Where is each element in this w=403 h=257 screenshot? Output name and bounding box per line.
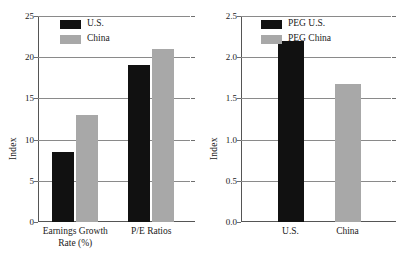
y-axis-tick-label: 15 bbox=[25, 94, 34, 103]
y-axis-tick-label: 10 bbox=[25, 135, 34, 144]
y-axis-tick bbox=[237, 16, 241, 17]
y-axis-tick-label: 2.5 bbox=[226, 12, 237, 21]
legend-swatch bbox=[60, 35, 81, 44]
y-axis-tick bbox=[34, 98, 38, 99]
y-axis-tick bbox=[34, 181, 38, 182]
bar bbox=[335, 84, 361, 222]
y-axis-tick bbox=[392, 181, 396, 182]
legend-item: China bbox=[60, 33, 110, 45]
legend-label: PEG U.S. bbox=[288, 19, 325, 29]
category-label-line: P/E Ratios bbox=[103, 226, 199, 238]
y-axis-tick bbox=[237, 181, 241, 182]
y-axis-tick-labels: 0.00.51.01.52.02.5 bbox=[201, 16, 237, 222]
gridline bbox=[241, 98, 391, 99]
gridline bbox=[241, 57, 391, 58]
legend-item: U.S. bbox=[60, 18, 110, 30]
gridline bbox=[38, 16, 190, 17]
legend: U.S.China bbox=[60, 18, 110, 48]
y-axis-tick bbox=[34, 140, 38, 141]
y-axis-tick bbox=[392, 57, 396, 58]
legend-label: U.S. bbox=[87, 19, 104, 29]
legend-item: PEG China bbox=[261, 33, 331, 45]
y-axis-tick bbox=[237, 140, 241, 141]
y-axis-tick bbox=[237, 98, 241, 99]
x-axis-category-label: China bbox=[313, 226, 383, 238]
y-axis-tick bbox=[392, 140, 396, 141]
y-axis-tick-label: 25 bbox=[25, 12, 34, 21]
y-axis-tick bbox=[191, 57, 195, 58]
legend-swatch bbox=[261, 20, 282, 29]
chart-panel-index: Index 0510152025 U.S.China Earnings Grow… bbox=[0, 0, 201, 257]
bar bbox=[278, 41, 304, 222]
y-axis-tick-label: 0.0 bbox=[226, 218, 237, 227]
chart-figure: Index 0510152025 U.S.China Earnings Grow… bbox=[0, 0, 403, 257]
legend-swatch bbox=[261, 35, 282, 44]
y-axis-tick bbox=[34, 57, 38, 58]
y-axis-tick bbox=[191, 181, 195, 182]
y-axis-spine bbox=[241, 16, 242, 222]
y-axis-tick bbox=[191, 16, 195, 17]
legend-item: PEG U.S. bbox=[261, 18, 331, 30]
x-axis-baseline bbox=[241, 221, 396, 222]
y-axis-tick-label: 1.0 bbox=[226, 135, 237, 144]
x-axis-category-label: P/E Ratios bbox=[103, 226, 199, 238]
y-axis-tick bbox=[237, 57, 241, 58]
y-axis-tick-label: 20 bbox=[25, 53, 34, 62]
y-axis-tick bbox=[237, 222, 241, 223]
chart-panel-peg: Index 0.00.51.01.52.02.5 PEG U.S.PEG Chi… bbox=[201, 0, 403, 257]
y-axis-tick-label: 1.5 bbox=[226, 94, 237, 103]
y-axis-tick-label: 2.0 bbox=[226, 53, 237, 62]
legend: PEG U.S.PEG China bbox=[261, 18, 331, 48]
y-axis-tick-label: 0.5 bbox=[226, 176, 237, 185]
bar bbox=[152, 49, 174, 222]
gridline bbox=[241, 140, 391, 141]
bar bbox=[128, 65, 150, 222]
legend-swatch bbox=[60, 20, 81, 29]
y-axis-tick bbox=[392, 16, 396, 17]
y-axis-tick-labels: 0510152025 bbox=[0, 16, 34, 222]
category-label-line: Rate (%) bbox=[27, 238, 123, 250]
legend-label: China bbox=[87, 34, 110, 44]
category-label-line: China bbox=[313, 226, 383, 238]
gridline bbox=[241, 181, 391, 182]
gridline bbox=[241, 16, 391, 17]
y-axis-spine bbox=[38, 16, 39, 222]
y-axis-tick bbox=[191, 140, 195, 141]
legend-label: PEG China bbox=[288, 34, 331, 44]
y-axis-tick bbox=[34, 16, 38, 17]
bar bbox=[76, 115, 98, 222]
y-axis-tick bbox=[191, 98, 195, 99]
bar bbox=[52, 152, 74, 222]
y-axis-tick bbox=[392, 98, 396, 99]
y-axis-tick bbox=[34, 222, 38, 223]
